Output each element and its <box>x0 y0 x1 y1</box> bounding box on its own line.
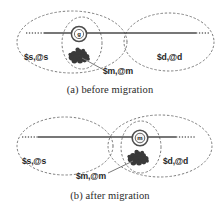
caption-panel-b: (b) after migration <box>0 190 220 201</box>
panel-before-migration: g <box>0 0 220 106</box>
panel-after-migration: m <box>0 106 220 212</box>
object-cluster-b <box>127 150 149 166</box>
migrating-ellipse-b <box>121 121 161 173</box>
guardian-node-label-a: g <box>77 31 81 37</box>
destination-ellipse-a <box>124 13 214 71</box>
migration-figure: g <box>0 0 220 213</box>
migrated-node-label-b: m <box>137 135 142 141</box>
panel-a-drawing: g <box>0 0 220 88</box>
caption-panel-a: (a) before migration <box>0 84 220 95</box>
migrating-leader-line-a <box>82 58 104 70</box>
source-ellipse-b <box>17 117 113 175</box>
destination-ellipse-b <box>108 115 212 177</box>
migrating-label-a: $m,@m <box>103 66 133 76</box>
destination-label-a: $d,@d <box>157 52 182 62</box>
destination-label-b: $d,@d <box>163 156 188 166</box>
panel-b-drawing: m <box>0 106 220 194</box>
source-label-b: $s,@s <box>22 156 47 166</box>
migrating-label-b: $m,@m <box>76 171 106 181</box>
source-label-a: $s,@s <box>24 52 49 62</box>
